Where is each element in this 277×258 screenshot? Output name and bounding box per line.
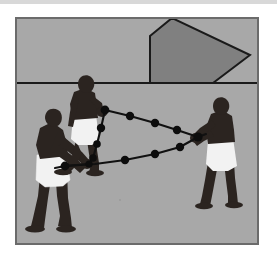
figure-center-front-foot [86, 170, 104, 176]
knot-left-vertex [61, 162, 70, 171]
knot-u2 [151, 119, 159, 127]
knot-u3 [173, 126, 181, 134]
knot-l1 [176, 143, 184, 151]
ground-speck [119, 199, 121, 201]
top-band [0, 0, 277, 4]
figure-left-front-foot [56, 226, 76, 233]
knot-near-hand [85, 160, 92, 167]
figure-right-rear-foot [195, 203, 213, 209]
knot-v2 [93, 140, 101, 148]
figure-right-head [213, 97, 229, 115]
figure-left-rear-foot [25, 226, 45, 233]
knot-l2 [151, 150, 159, 158]
figure-right-front-foot [225, 202, 243, 208]
knot-apex-top [101, 106, 110, 115]
scene-contents [17, 18, 257, 243]
knot-right-vertex [193, 132, 202, 141]
knot-u1 [126, 112, 134, 120]
knot-v1 [97, 124, 105, 132]
knot-l3 [121, 156, 129, 164]
rope-stretchers-scene [0, 0, 277, 258]
illustration-container: Egyptian rope stretchers forming a 3-4-5… [0, 0, 277, 258]
figure-center-head [78, 75, 94, 93]
